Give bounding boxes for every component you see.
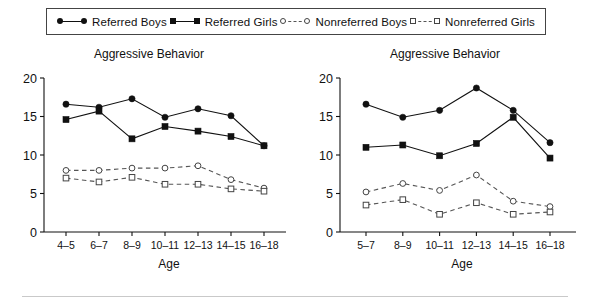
- data-point: [129, 175, 135, 181]
- series-line: [366, 88, 550, 143]
- y-tick-label: 5: [326, 187, 333, 201]
- data-point: [63, 175, 69, 181]
- data-point: [96, 168, 102, 174]
- data-point: [437, 107, 443, 113]
- x-tick-label: 16–18: [249, 239, 278, 251]
- data-point: [96, 108, 102, 114]
- data-point: [547, 140, 553, 146]
- x-tick-label: 5–7: [357, 239, 375, 251]
- data-point: [363, 202, 369, 208]
- data-point: [363, 189, 369, 195]
- legend-marker-open-circle-icon: [280, 17, 310, 27]
- bottom-divider: [22, 296, 568, 297]
- y-tick-label: 0: [326, 226, 333, 240]
- y-tick-label: 15: [319, 110, 333, 124]
- data-point: [400, 197, 406, 203]
- data-point: [437, 211, 443, 217]
- y-tick-label: 20: [23, 72, 37, 86]
- x-tick-label: 4–5: [57, 239, 75, 251]
- data-point: [162, 165, 168, 171]
- x-tick-label: 14–15: [216, 239, 245, 251]
- line-chart-right: 051015205–78–910–1112–1314–1516–18Age: [300, 66, 589, 294]
- legend-item-nonreferred-boys: Nonreferred Boys: [280, 16, 407, 28]
- data-point: [228, 186, 234, 192]
- y-tick-label: 5: [30, 187, 37, 201]
- data-point: [400, 142, 406, 148]
- data-point: [63, 168, 69, 174]
- x-tick-label: 16–18: [535, 239, 564, 251]
- chart-panel-right: Aggressive Behavior 051015205–78–910–111…: [300, 44, 589, 294]
- data-point: [437, 188, 443, 194]
- data-point: [96, 179, 102, 185]
- data-point: [547, 204, 553, 210]
- data-point: [129, 96, 135, 102]
- chart-title: Aggressive Behavior: [300, 47, 589, 61]
- series-line: [66, 99, 264, 146]
- data-point: [363, 101, 369, 107]
- chart-title: Aggressive Behavior: [4, 47, 294, 61]
- x-tick-label: 14–15: [499, 239, 528, 251]
- series-line: [366, 117, 550, 158]
- data-point: [63, 101, 69, 107]
- data-point: [63, 117, 69, 123]
- y-tick-label: 10: [23, 149, 37, 163]
- data-point: [547, 155, 553, 161]
- legend-label: Referred Boys: [92, 16, 167, 28]
- legend-item-nonreferred-girls: Nonreferred Girls: [410, 16, 535, 28]
- data-point: [228, 134, 234, 140]
- data-point: [510, 211, 516, 217]
- x-tick-label: 12–13: [462, 239, 491, 251]
- legend-item-referred-girls: Referred Girls: [170, 16, 278, 28]
- series-line: [366, 200, 550, 215]
- data-point: [473, 140, 479, 146]
- data-point: [510, 114, 516, 120]
- data-point: [510, 107, 516, 113]
- data-point: [261, 143, 267, 149]
- data-point: [510, 198, 516, 204]
- x-tick-label: 10–11: [425, 239, 454, 251]
- data-point: [195, 106, 201, 112]
- legend-marker-filled-square-icon: [170, 17, 200, 27]
- x-tick-label: 8–9: [123, 239, 141, 251]
- x-tick-label: 8–9: [394, 239, 412, 251]
- legend-label: Nonreferred Girls: [445, 16, 535, 28]
- data-point: [261, 188, 267, 194]
- data-point: [400, 181, 406, 187]
- data-point: [474, 172, 480, 178]
- data-point: [228, 113, 234, 119]
- y-tick-label: 0: [30, 226, 37, 240]
- legend-label: Referred Girls: [205, 16, 278, 28]
- y-tick-label: 15: [23, 110, 37, 124]
- legend-label: Nonreferred Boys: [315, 16, 407, 28]
- data-point: [400, 114, 406, 120]
- x-tick-label: 12–13: [183, 239, 212, 251]
- series-line: [366, 175, 550, 207]
- data-point: [162, 181, 168, 187]
- legend-marker-filled-circle-icon: [57, 17, 87, 27]
- x-tick-label: 10–11: [151, 239, 180, 251]
- x-tick-label: 6–7: [90, 239, 108, 251]
- x-axis-label: Age: [158, 257, 180, 271]
- data-point: [195, 128, 201, 134]
- data-point: [162, 124, 168, 130]
- data-point: [162, 114, 168, 120]
- plot-area-left: 051015204–56–78–910–1112–1314–1516–18Age: [4, 66, 294, 294]
- y-tick-label: 10: [319, 149, 333, 163]
- data-point: [474, 200, 480, 206]
- data-point: [473, 85, 479, 91]
- x-axis-label: Age: [451, 257, 473, 271]
- plot-area-right: 051015205–78–910–1112–1314–1516–18Age: [300, 66, 589, 294]
- data-point: [363, 144, 369, 150]
- chart-legend: Referred Boys Referred Girls Nonreferred…: [46, 8, 546, 35]
- data-point: [129, 136, 135, 142]
- data-point: [547, 209, 553, 215]
- line-chart-left: 051015204–56–78–910–1112–1314–1516–18Age: [4, 66, 294, 294]
- data-point: [437, 153, 443, 159]
- legend-marker-open-square-icon: [410, 17, 440, 27]
- y-tick-label: 20: [319, 72, 333, 86]
- data-point: [195, 163, 201, 169]
- data-point: [195, 181, 201, 187]
- data-point: [228, 177, 234, 183]
- chart-panel-left: Aggressive Behavior 051015204–56–78–910–…: [4, 44, 294, 294]
- legend-item-referred-boys: Referred Boys: [57, 16, 167, 28]
